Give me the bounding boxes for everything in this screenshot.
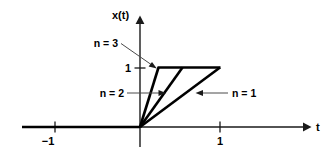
figure-root: x(t) t −1 1 1 n = 3 n = 2 n = 1 bbox=[0, 0, 330, 163]
ramp-n1 bbox=[140, 68, 220, 128]
annotation-label-n1: n = 1 bbox=[232, 87, 256, 99]
signal-plot-svg: x(t) t −1 1 1 n = 3 n = 2 n = 1 bbox=[0, 0, 330, 163]
annotation-leaders bbox=[121, 44, 228, 97]
tick-label-y-1: 1 bbox=[125, 62, 131, 74]
ramp-n3 bbox=[140, 68, 159, 128]
y-axis-arrowhead bbox=[136, 16, 145, 25]
y-axis-label: x(t) bbox=[112, 9, 129, 21]
tick-label-x-minus1: −1 bbox=[42, 135, 55, 147]
annotation-label-n2: n = 2 bbox=[100, 87, 124, 99]
x-axis-label: t bbox=[316, 121, 320, 133]
ramp-n2 bbox=[140, 68, 183, 128]
leader-n3-arrowhead bbox=[149, 62, 157, 69]
leader-n1-arrowhead bbox=[196, 90, 204, 96]
annotation-label-n3: n = 3 bbox=[94, 37, 118, 49]
tick-label-x-1: 1 bbox=[217, 135, 223, 147]
t-axis-arrowhead bbox=[303, 123, 312, 132]
